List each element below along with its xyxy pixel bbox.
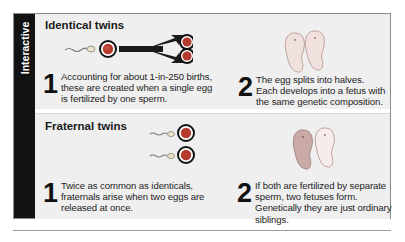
split-egg-icon <box>180 35 193 63</box>
egg-icon <box>178 125 194 141</box>
interactive-label[interactable]: Interactive <box>19 18 31 78</box>
step-text: The egg splits into halves. Each develop… <box>256 74 388 108</box>
fraternal-twins-panel: Fraternal twins <box>35 113 390 219</box>
step-text: Accounting for about 1-in-250 births, th… <box>61 71 213 105</box>
step-text: If both are fertilized by separate sperm… <box>255 180 397 225</box>
step-number: 1 <box>43 180 58 206</box>
two-eggs-illustration <box>148 122 198 168</box>
egg-icon <box>178 147 194 163</box>
step-2: 2 The egg splits into halves. Each devel… <box>238 74 388 108</box>
bottom-rule <box>13 230 391 231</box>
step-number: 2 <box>237 180 252 206</box>
step-number: 2 <box>238 74 253 100</box>
panel-title: Identical twins <box>45 19 124 31</box>
twin-fetuses-icon <box>280 27 330 77</box>
split-arrow-icon <box>119 35 183 63</box>
step-1: 1 Twice as common as identicals, fratern… <box>43 180 213 214</box>
identical-twins-panel: Identical twins <box>35 14 390 109</box>
step-text: Twice as common as identicals, fraternal… <box>61 180 213 214</box>
sperm-icon <box>65 46 95 52</box>
sidebar: Interactive <box>14 14 35 218</box>
step-2: 2 If both are fertilized by separate spe… <box>237 180 397 225</box>
twin-fetuses-icon <box>288 124 340 174</box>
step-number: 1 <box>43 71 58 97</box>
twins-infographic: Interactive Identical twins <box>13 13 391 219</box>
fertilization-illustration <box>63 32 193 68</box>
egg-icon <box>100 41 116 57</box>
step-1: 1 Accounting for about 1-in-250 births, … <box>43 71 213 105</box>
panel-title: Fraternal twins <box>45 120 127 132</box>
sperm-icon <box>150 153 175 158</box>
sperm-icon <box>150 131 175 136</box>
